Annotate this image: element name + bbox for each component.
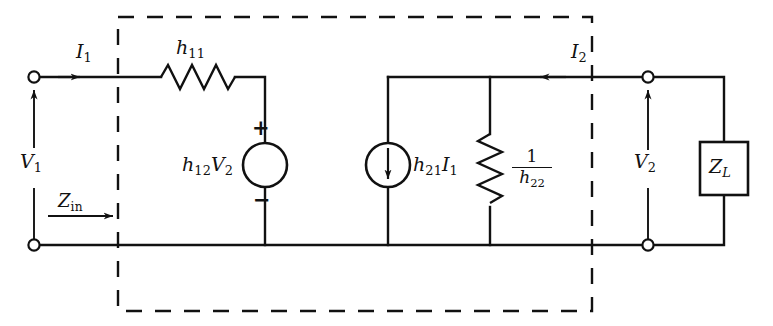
input-current-label: I1 [76,42,92,61]
shunt-resistor-label-1-over-h22: 1 h22 [512,148,552,187]
series-resistor-h11-symbol [161,65,235,89]
dependent-voltage-source-h12v2 [243,143,287,187]
input-terminal-top [28,71,39,82]
output-voltage-label: V2 [634,152,656,171]
schematic-drawing [0,0,773,326]
input-impedance-label: Zin [58,192,83,210]
dependent-current-source-label: h21I1 [413,155,458,174]
input-voltage-label: V1 [20,152,42,171]
circuit-diagram-figure: I1 V1 Zin h11 h12V2 + − h21I1 1 h22 I2 V… [0,0,773,326]
output-terminal-bottom [642,239,653,250]
load-impedance-label-zl: ZL [709,157,731,176]
output-current-label: I2 [571,42,587,61]
series-resistor-label-h11: h11 [176,38,205,57]
input-terminal-bottom [28,239,39,250]
bottom-rail-wire [40,187,724,245]
shunt-resistor-1-over-h22-symbol [478,134,502,203]
voltage-source-minus-sign: − [253,190,271,211]
top-rail-wire [40,65,724,143]
output-terminal-top [642,71,653,82]
voltage-source-plus-sign: + [252,118,270,139]
dependent-voltage-source-label: h12V2 [182,155,233,174]
